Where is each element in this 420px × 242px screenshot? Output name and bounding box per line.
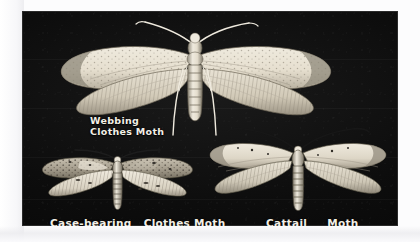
label-cattail-moth: CattailMoth — [266, 217, 359, 226]
specimen-cattail-moth — [200, 123, 396, 219]
abdomen — [113, 173, 122, 210]
label-webbing-line2: Clothes Moth — [90, 126, 164, 137]
paper-edge-left — [0, 0, 24, 242]
moth-plate-figure: Webbing Clothes Moth — [0, 0, 420, 242]
paper-scan-band — [0, 226, 420, 242]
label-webbing-clothes-moth: Webbing Clothes Moth — [90, 115, 164, 137]
label-casebearing-part1: Case-bearing — [50, 217, 132, 226]
thorax — [292, 146, 304, 168]
specimen-case-bearing-clothes-moth — [32, 139, 202, 219]
abdomen — [293, 166, 304, 211]
thorax — [113, 156, 123, 175]
thorax — [187, 33, 203, 66]
label-webbing-line1: Webbing — [90, 115, 164, 126]
label-cattail-part2: Moth — [327, 217, 358, 226]
abdomen — [188, 65, 203, 121]
label-cattail-part1: Cattail — [266, 217, 307, 226]
photographic-plate: Webbing Clothes Moth — [22, 11, 398, 226]
